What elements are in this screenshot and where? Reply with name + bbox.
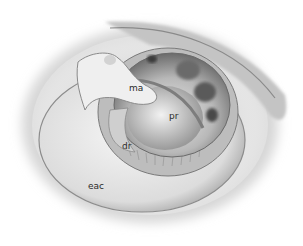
malleus-head [104, 55, 116, 65]
recess-4 [206, 108, 218, 122]
tympanic-membrane-drawing [0, 0, 303, 246]
label-ma: ma [129, 84, 143, 93]
recess-1 [147, 55, 157, 63]
label-eac: eac [88, 182, 104, 191]
label-pr: pr [169, 112, 178, 121]
ear-illustration: ma pr dr eac [0, 0, 303, 246]
recess-2 [176, 60, 200, 80]
recess-3 [194, 82, 216, 102]
label-dr: dr [122, 142, 131, 151]
